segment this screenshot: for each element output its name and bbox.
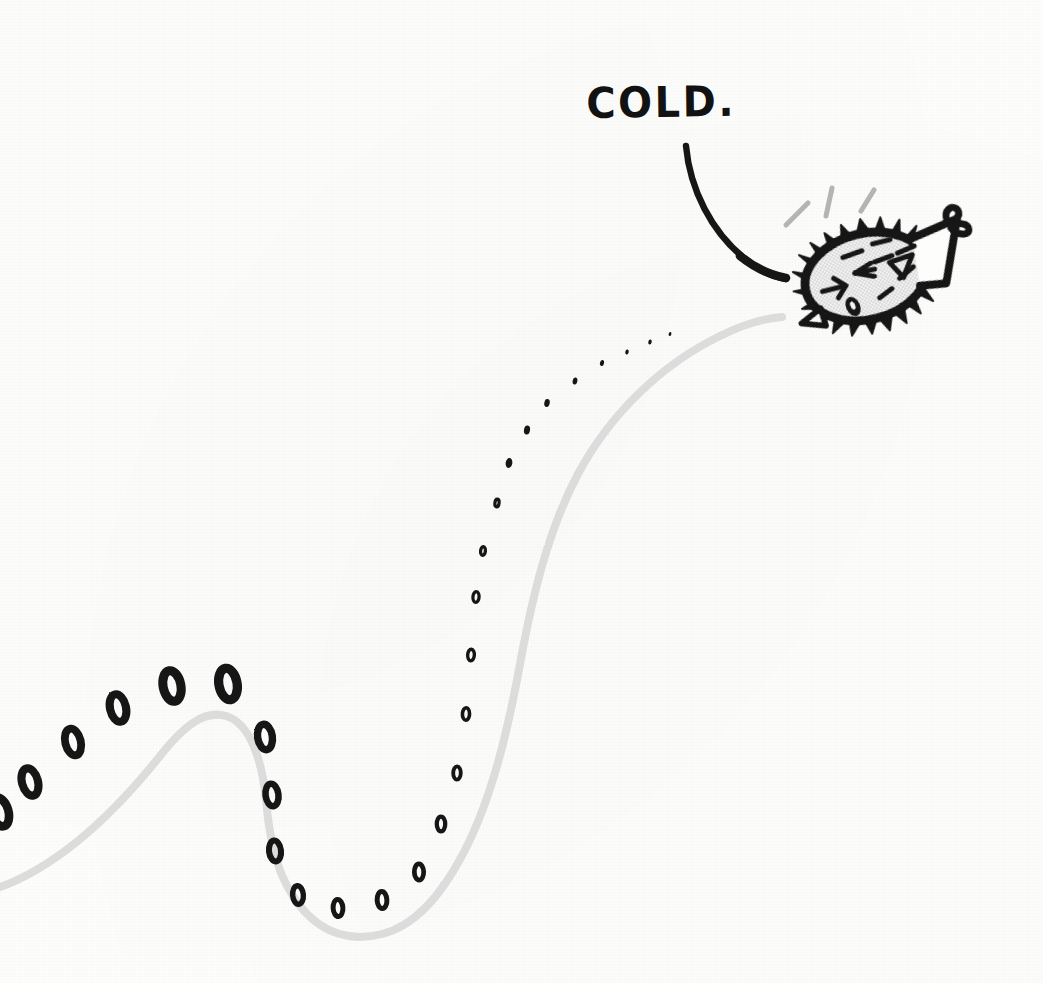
trail-zero	[494, 499, 499, 507]
trail-zero	[544, 399, 551, 408]
trail-zero	[480, 546, 486, 555]
trail-zero	[0, 796, 12, 829]
trail-zero	[523, 425, 530, 435]
trail-zero	[292, 885, 304, 904]
trail-zero	[62, 727, 84, 757]
trail-zero	[107, 693, 129, 724]
illustration-artwork	[0, 0, 1043, 983]
trail-zero	[625, 349, 629, 355]
trail-zero	[453, 766, 461, 779]
trail-zero	[437, 817, 446, 832]
pectoral-fin	[799, 308, 826, 331]
trail-zero	[160, 669, 183, 703]
trail-zero	[333, 899, 344, 917]
trail-zero	[462, 708, 470, 721]
trail-zero	[472, 591, 479, 602]
illustration-canvas: COLD.	[0, 0, 1043, 983]
trail-zero	[572, 377, 578, 385]
pufferfish	[781, 194, 988, 350]
trail-zero	[377, 891, 388, 908]
trail-zero	[505, 458, 513, 469]
trail-zero	[414, 864, 424, 880]
trail-zero	[256, 723, 274, 751]
bubble-zero-trail	[0, 332, 672, 917]
trail-zero	[264, 783, 280, 807]
trail-zero	[19, 766, 42, 797]
swim-path	[0, 317, 782, 937]
pointer-curve	[686, 146, 786, 279]
trail-zero	[467, 649, 474, 661]
trail-zero	[668, 332, 672, 337]
trail-zero	[599, 360, 604, 367]
trail-zero	[216, 667, 239, 701]
cold-label: COLD.	[586, 80, 736, 125]
trail-zero	[648, 339, 653, 345]
